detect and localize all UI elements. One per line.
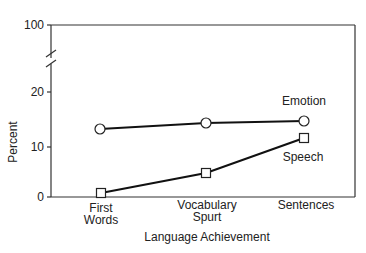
speech-point: [202, 169, 211, 178]
emotion-point: [201, 118, 211, 128]
y-axis-label: Percent: [6, 121, 20, 163]
speech-point: [97, 189, 106, 198]
ytick-10: 10: [31, 140, 45, 154]
speech-label: Speech: [283, 150, 324, 164]
xtick-sentences: Sentences: [278, 198, 335, 212]
emotion-point: [299, 116, 309, 126]
xtick-vocabulary-spurt-line2: Spurt: [193, 210, 222, 224]
speech-line: [101, 138, 304, 193]
emotion-label: Emotion: [282, 94, 326, 108]
ytick-0: 0: [37, 190, 44, 204]
ytick-20: 20: [31, 85, 45, 99]
speech-point: [300, 134, 309, 143]
line-chart: 100 20 10 0 Percent Emotion Speech First…: [0, 0, 366, 253]
x-axis-label: Language Achievement: [144, 230, 270, 244]
ytick-100: 100: [24, 18, 44, 32]
emotion-point: [95, 124, 105, 134]
xtick-first-words-line2: Words: [84, 213, 118, 227]
